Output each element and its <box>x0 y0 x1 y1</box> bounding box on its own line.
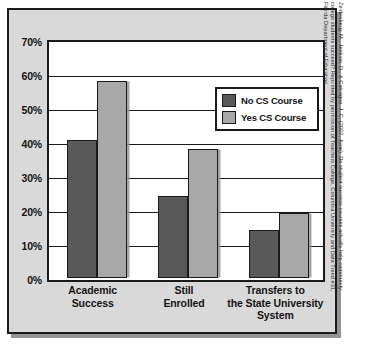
y-axis: 70%60%50%40%30%20%10%0% <box>9 40 45 282</box>
y-tick-label: 10% <box>22 240 42 252</box>
source-citation: Zeidenberg, M., Jenkins, D., & Calcagno,… <box>300 0 344 347</box>
figure-panel: 70%60%50%40%30%20%10%0% No CS Course Yes… <box>7 8 337 334</box>
legend-swatch-no-cs-course <box>222 94 236 107</box>
x-axis-labels: AcademicSuccessStillEnrolledTransfers to… <box>47 284 325 340</box>
y-tick-label: 40% <box>22 138 42 150</box>
legend-swatch-yes-cs-course <box>222 111 236 124</box>
bar-yes-cs-course[interactable] <box>97 81 127 278</box>
y-tick-label: 70% <box>22 36 42 48</box>
bar-no-cs-course[interactable] <box>249 230 279 278</box>
legend-label-yes-cs-course: Yes CS Course <box>241 112 306 123</box>
citation-line-3: Florida Department of Education <box>321 2 329 347</box>
y-tick-label: 30% <box>22 172 42 184</box>
y-tick-label: 20% <box>22 206 42 218</box>
plot-area: No CS Course Yes CS Course <box>47 40 325 282</box>
legend-item-yes-cs-course[interactable]: Yes CS Course <box>222 110 312 125</box>
bar-yes-cs-course[interactable] <box>188 149 218 278</box>
bar-group <box>142 44 233 278</box>
citation-line-1: Zeidenberg, M., Jenkins, D., & Calcagno,… <box>336 2 344 347</box>
bar-group <box>51 44 142 278</box>
y-tick-label: 50% <box>22 104 42 116</box>
y-tick-label: 60% <box>22 70 42 82</box>
bar-no-cs-course[interactable] <box>67 140 97 278</box>
citation-line-2: college students succeed? Reprinted by p… <box>329 2 337 347</box>
legend-label-no-cs-course: No CS Course <box>241 95 302 106</box>
legend-item-no-cs-course[interactable]: No CS Course <box>222 93 312 108</box>
bar-no-cs-course[interactable] <box>158 196 188 278</box>
bars-layer <box>51 44 321 278</box>
